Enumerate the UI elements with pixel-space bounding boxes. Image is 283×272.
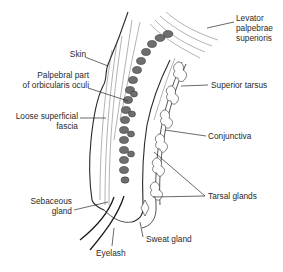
label-loose-superficial-fascia: Loose superficial fascia: [2, 111, 78, 131]
label-sweat-gland: Sweat gland: [146, 234, 192, 244]
label-tarsal-glands-text: Tarsal glands: [208, 191, 257, 201]
label-levator-line1: Levator: [236, 13, 273, 23]
label-sebaceous-line1: Sebaceous: [10, 196, 72, 206]
label-eyelash-text: Eyelash: [96, 248, 126, 258]
label-palpebral-part-line2: of orbicularis oculi: [10, 80, 89, 90]
label-eyelash: Eyelash: [96, 248, 126, 258]
label-levator-line3: superioris: [236, 33, 273, 43]
label-sweat-gland-text: Sweat gland: [146, 234, 192, 244]
label-sebaceous-gland: Sebaceous gland: [10, 196, 72, 216]
label-loose-fascia-line2: fascia: [2, 121, 78, 131]
label-superior-tarsus-text: Superior tarsus: [211, 80, 267, 90]
label-skin: Skin: [52, 49, 86, 59]
label-sebaceous-line2: gland: [10, 206, 72, 216]
label-loose-fascia-line1: Loose superficial: [2, 111, 78, 121]
label-superior-tarsus: Superior tarsus: [211, 80, 267, 90]
label-skin-text: Skin: [70, 49, 86, 59]
label-palpebral-part-line1: Palpebral part: [10, 70, 89, 80]
label-palpebral-part: Palpebral part of orbicularis oculi: [10, 70, 89, 90]
label-tarsal-glands: Tarsal glands: [208, 191, 257, 201]
label-conjunctiva-text: Conjunctiva: [208, 131, 251, 141]
label-levator-line2: palpebrae: [236, 23, 273, 33]
label-conjunctiva: Conjunctiva: [208, 131, 251, 141]
eyelid-diagram: Skin Palpebral part of orbicularis oculi…: [0, 0, 283, 272]
label-levator-palpebrae-superioris: Levator palpebrae superioris: [236, 13, 273, 43]
